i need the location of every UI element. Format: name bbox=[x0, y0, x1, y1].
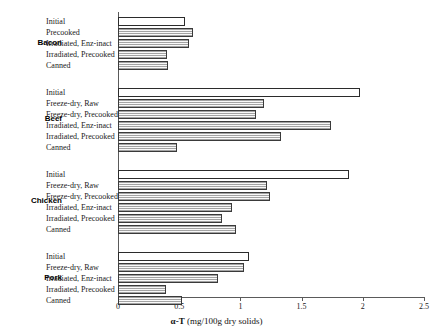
bar-row: Initial bbox=[0, 16, 433, 27]
bar bbox=[118, 99, 264, 108]
category-label: Irradiated, Enz-inact bbox=[46, 273, 114, 284]
bar bbox=[118, 132, 281, 141]
x-axis-title-units: (mg/100g dry solids) bbox=[185, 316, 263, 326]
category-label: Irradiated, Precooked bbox=[46, 213, 114, 224]
bar-row: Initial bbox=[0, 169, 433, 180]
bar bbox=[118, 274, 218, 283]
bar bbox=[118, 181, 267, 190]
category-label: Canned bbox=[46, 142, 114, 153]
bar bbox=[118, 88, 360, 97]
category-label: Freeze-dry, Raw bbox=[46, 98, 114, 109]
bar-row: Irradiated, Enz-inact bbox=[0, 202, 433, 213]
x-axis-title-symbol: α-T bbox=[171, 316, 185, 326]
bar bbox=[118, 296, 182, 305]
category-label: Freeze-dry, Precooked bbox=[46, 191, 114, 202]
bar bbox=[118, 28, 193, 37]
bar-row: Canned bbox=[0, 295, 433, 306]
bar-row: Freeze-dry, Raw bbox=[0, 180, 433, 191]
bar bbox=[118, 143, 177, 152]
bar bbox=[118, 17, 185, 26]
category-label: Irradiated, Enz-inact bbox=[46, 38, 114, 49]
bar-row: Freeze-dry, Raw bbox=[0, 262, 433, 273]
category-label: Irradiated, Precooked bbox=[46, 49, 114, 60]
category-label: Irradiated, Enz-inact bbox=[46, 202, 114, 213]
category-label: Canned bbox=[46, 60, 114, 71]
bar-chart: 00.511.522.5 α-T (mg/100g dry solids) Ba… bbox=[0, 0, 433, 331]
bar-group-pork: PorkInitialFreeze-dry, RawIrradiated, En… bbox=[0, 251, 433, 306]
bar-row: Canned bbox=[0, 224, 433, 235]
bar bbox=[118, 39, 189, 48]
bar bbox=[118, 203, 232, 212]
category-label: Freeze-dry, Raw bbox=[46, 262, 114, 273]
bar-row: Irradiated, Precooked bbox=[0, 131, 433, 142]
bar-group-chicken: ChickenInitialFreeze-dry, RawFreeze-dry,… bbox=[0, 169, 433, 235]
bar-row: Initial bbox=[0, 87, 433, 98]
bar bbox=[118, 225, 236, 234]
bar-row: Irradiated, Precooked bbox=[0, 213, 433, 224]
bar bbox=[118, 110, 256, 119]
category-label: Canned bbox=[46, 224, 114, 235]
bar bbox=[118, 61, 168, 70]
bar-group-beef: BeefInitialFreeze-dry, RawFreeze-dry, Pr… bbox=[0, 87, 433, 153]
bar-row: Freeze-dry, Precooked bbox=[0, 191, 433, 202]
bar-row: Irradiated, Enz-inact bbox=[0, 273, 433, 284]
bar-row: Irradiated, Enz-inact bbox=[0, 38, 433, 49]
bar-row: Irradiated, Enz-inact bbox=[0, 120, 433, 131]
category-label: Initial bbox=[46, 251, 114, 262]
bar bbox=[118, 285, 166, 294]
category-label: Canned bbox=[46, 295, 114, 306]
bar bbox=[118, 192, 270, 201]
category-label: Irradiated, Precooked bbox=[46, 131, 114, 142]
category-label: Precooked bbox=[46, 27, 114, 38]
bar-row: Initial bbox=[0, 251, 433, 262]
bar-row: Canned bbox=[0, 142, 433, 153]
category-label: Initial bbox=[46, 169, 114, 180]
category-label: Initial bbox=[46, 16, 114, 27]
bar-group-bacon: BaconInitialPrecookedIrradiated, Enz-ina… bbox=[0, 16, 433, 71]
bar bbox=[118, 263, 244, 272]
bar-row: Precooked bbox=[0, 27, 433, 38]
bar-row: Irradiated, Precooked bbox=[0, 284, 433, 295]
bar bbox=[118, 214, 222, 223]
category-label: Freeze-dry, Raw bbox=[46, 180, 114, 191]
bar bbox=[118, 50, 167, 59]
bar bbox=[118, 170, 349, 179]
bar bbox=[118, 121, 331, 130]
bar-row: Irradiated, Precooked bbox=[0, 49, 433, 60]
x-axis-title: α-T (mg/100g dry solids) bbox=[0, 316, 433, 326]
bar-row: Canned bbox=[0, 60, 433, 71]
bar-row: Freeze-dry, Raw bbox=[0, 98, 433, 109]
category-label: Irradiated, Enz-inact bbox=[46, 120, 114, 131]
category-label: Initial bbox=[46, 87, 114, 98]
category-label: Freeze-dry, Precooked bbox=[46, 109, 114, 120]
bar bbox=[118, 252, 249, 261]
category-label: Irradiated, Precooked bbox=[46, 284, 114, 295]
bar-row: Freeze-dry, Precooked bbox=[0, 109, 433, 120]
